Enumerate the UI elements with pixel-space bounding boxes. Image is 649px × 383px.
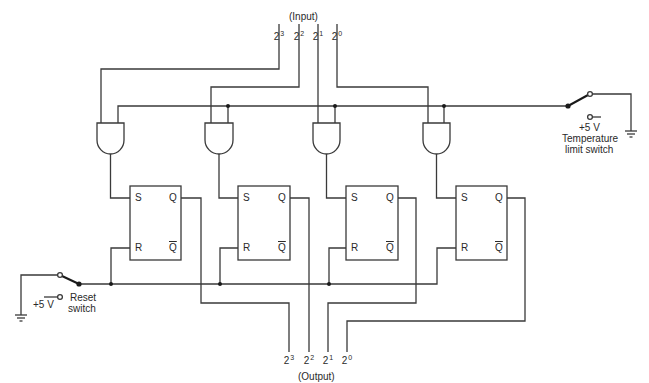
ground-icon xyxy=(15,315,27,321)
output-bit-1: 21 xyxy=(323,354,333,366)
input-bit-2: 22 xyxy=(294,30,304,42)
temp-switch-label-2: limit switch xyxy=(565,145,613,155)
ff1-qbar-label: Q xyxy=(169,243,177,253)
ff4-r-label: R xyxy=(461,243,468,253)
ff1-r-label: R xyxy=(135,243,142,253)
and-gate-2 xyxy=(205,123,238,198)
input-label: (Input) xyxy=(289,12,318,22)
ff4-s-label: S xyxy=(461,193,468,203)
ff3-s-label: S xyxy=(351,193,358,203)
and-gate-4 xyxy=(423,123,456,198)
ground-icon xyxy=(625,131,637,137)
ff2-s-label: S xyxy=(243,193,250,203)
ff2-q-label: Q xyxy=(278,193,286,203)
output-bit-2: 22 xyxy=(304,354,314,366)
and-gate-3 xyxy=(313,123,346,198)
ff2-r-label: R xyxy=(243,243,250,253)
temp-switch-label-1: Temperature xyxy=(562,134,618,144)
enable-bus xyxy=(118,104,568,123)
output-label: (Output) xyxy=(298,372,335,382)
ff3-q-label: Q xyxy=(386,193,394,203)
reset-switch-voltage: +5 V xyxy=(33,300,54,310)
input-wires xyxy=(101,24,428,123)
input-bit-3: 23 xyxy=(274,30,284,42)
input-bit-1: 21 xyxy=(313,30,323,42)
ff3-r-label: R xyxy=(351,243,358,253)
output-bit-3: 23 xyxy=(284,354,294,366)
and-gate-1 xyxy=(97,123,130,198)
input-bit-0: 20 xyxy=(332,30,342,42)
ff1-q-label: Q xyxy=(169,193,177,203)
ff4-q-label: Q xyxy=(495,193,503,203)
ff2-qbar-label: Q xyxy=(278,243,286,253)
reset-switch-label-1: Reset xyxy=(70,293,96,303)
circuit-schematic xyxy=(0,0,649,383)
output-bit-0: 20 xyxy=(342,354,352,366)
ff1-s-label: S xyxy=(135,193,142,203)
reset-switch-label-2: switch xyxy=(68,304,96,314)
temp-switch-voltage: +5 V xyxy=(579,123,600,133)
ff3-qbar-label: Q xyxy=(386,243,394,253)
ff4-qbar-label: Q xyxy=(495,243,503,253)
